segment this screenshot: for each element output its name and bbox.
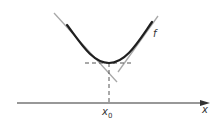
function-label: f: [153, 28, 158, 39]
tangent-line-right: [118, 16, 158, 72]
x-axis-label: x: [201, 104, 208, 115]
convex-function-diagram: f x x0: [0, 0, 222, 134]
x-axis: [17, 100, 210, 106]
point-label-x0: x0: [101, 106, 112, 120]
